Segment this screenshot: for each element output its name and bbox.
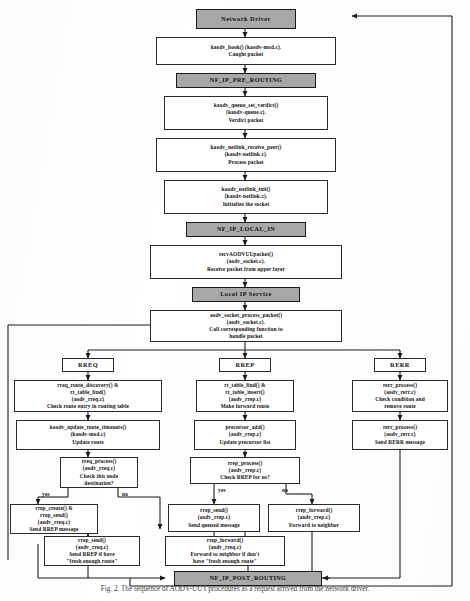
node-text: rrep_send() xyxy=(200,507,228,514)
node-kaodv-update-route-timeouts[interactable]: kaodv_update_route_timeouts() (kaodv-mod… xyxy=(16,420,160,450)
node-text: aodv_socket_process_packet() xyxy=(210,312,282,319)
node-text: handle packet xyxy=(229,333,263,340)
node-rrep-create-send[interactable]: rrep_create() & rrep_send() (aodv_rreq.c… xyxy=(10,504,98,534)
node-nf-ip-post-routing[interactable]: NF_IP_POST_ROUTING xyxy=(174,571,322,586)
node-rreq-process[interactable]: rreq_process() (aodv_rreq.c) Check this … xyxy=(60,457,138,488)
node-aodv-socket-process-packet[interactable]: aodv_socket_process_packet() (aodv_socke… xyxy=(150,310,342,342)
node-rrep-forward-fresh[interactable]: rrep_forward() (aodv_rreq.c) Forward to … xyxy=(165,536,285,566)
node-text: "fresh enough route" xyxy=(66,558,117,565)
node-text: (aodv_rrep.c) xyxy=(229,431,262,438)
node-text: rt_table_find() & xyxy=(224,382,265,389)
node-text: (aodv_rrep.c) xyxy=(229,396,262,403)
node-text: kaodv_queue_set_verdict() xyxy=(214,102,279,109)
node-text: Make forward route xyxy=(221,403,270,410)
node-text: remove route xyxy=(384,403,416,410)
node-precursor-add[interactable]: precursor_add() (aodv_rrep.c) Update pre… xyxy=(194,420,296,450)
node-text: recvAODVUUpacket() xyxy=(219,251,273,258)
node-text: Check RREP for us? xyxy=(220,474,269,481)
node-text: kaodv_hook() (kaodv-mod.c). xyxy=(211,44,282,51)
node-kaodv-queue-set-verdict[interactable]: kaodv_queue_set_verdict() (kaodv-queue.c… xyxy=(164,96,328,130)
node-text: NF_IP_LOCAL_IN xyxy=(217,225,275,233)
node-text: rrep_create() & xyxy=(35,505,73,512)
node-rrep-send-fresh[interactable]: rrep_send() (aodv_rreq.c) Send RREP if h… xyxy=(44,536,140,566)
node-text: Send RREP message xyxy=(29,526,78,533)
node-text: rrep_send() xyxy=(40,512,68,519)
node-nf-ip-local-in[interactable]: NF_IP_LOCAL_IN xyxy=(186,222,306,237)
node-text: rt_table_find() xyxy=(70,389,105,396)
node-text: (aodv_rrep.c) xyxy=(229,467,262,474)
node-text: RREQ xyxy=(78,361,98,369)
node-rt-table-find-insert[interactable]: rt_table_find() & rt_table_insert() (aod… xyxy=(196,380,294,412)
node-kaodv-netlink-receive-peer[interactable]: kaodv_netlink_receive_peer() (kaodv-netl… xyxy=(156,138,336,172)
edge-label-rreq-yes: yes xyxy=(42,491,50,497)
node-text: NF_IP_PRE_ROUTING xyxy=(210,76,282,84)
node-text: have "fresh enough route" xyxy=(193,558,257,565)
node-text: Verdict packet xyxy=(229,117,264,124)
node-text: destination? xyxy=(84,480,113,487)
node-text: (aodv_rreq.c) xyxy=(83,465,116,472)
node-local-ip-service[interactable]: Local IP Service xyxy=(192,287,300,302)
node-rerr-send-message[interactable]: rerr_process() (aodv_rerr.c) Send RERR m… xyxy=(352,420,448,450)
node-kaodv-hook[interactable]: kaodv_hook() (kaodv-mod.c). Caught packe… xyxy=(156,37,336,65)
node-text: (kaodv-mod.c) xyxy=(71,431,106,438)
node-text: precursor_add() xyxy=(225,424,264,431)
node-text: rt_table_insert() xyxy=(225,389,264,396)
node-text: Forward to neighbor if don't xyxy=(191,551,260,558)
node-text: (kaodv-netlink.c). xyxy=(225,151,268,158)
node-network-driver[interactable]: Network Driver xyxy=(196,9,296,29)
node-text: (aodv_rerr.c) xyxy=(384,431,415,438)
node-text: Update route xyxy=(72,439,104,446)
node-text: RREP xyxy=(235,361,254,369)
node-text: Send queued message xyxy=(188,522,240,529)
node-text: Process packet xyxy=(228,159,263,166)
node-text: (kaodv-queue.c). xyxy=(226,109,266,116)
node-text: Check condition and xyxy=(375,396,425,403)
node-rerr-process-check[interactable]: rerr_process() (aodv_rerr.c) Check condi… xyxy=(352,380,448,412)
node-text: Send RERR message xyxy=(375,439,425,446)
node-text: rerr_process() xyxy=(383,424,417,431)
node-text: RERR xyxy=(390,361,410,369)
node-recv-aodvuu-packet[interactable]: recvAODVUUpacket() (aodv_socket.c). Rece… xyxy=(150,245,342,279)
node-text: Call corresponding function to xyxy=(209,326,282,333)
node-text: (aodv_socket.c). xyxy=(227,258,265,265)
edge-label-rreq-no: no xyxy=(122,491,128,497)
node-text: rrep_forward() xyxy=(207,537,244,544)
node-text: (aodv_rerr.c) xyxy=(384,389,415,396)
node-text: Check route entry in routing table xyxy=(47,403,129,410)
node-tag-rerr[interactable]: RERR xyxy=(374,358,426,372)
node-text: Network Driver xyxy=(221,15,271,23)
node-text: rrep_forward() xyxy=(296,507,333,514)
node-text: rrep_process() xyxy=(228,460,263,467)
node-text: Update precursor list xyxy=(219,439,270,446)
node-text: Receive packet from upper layer xyxy=(207,266,285,273)
node-text: (aodv_rrep.c) xyxy=(198,514,231,521)
node-text: Check this node xyxy=(80,473,118,480)
node-kaodv-netlink-init[interactable]: kaodv_netlink_init() (kaodv-netlink.c). … xyxy=(164,180,328,214)
node-tag-rreq[interactable]: RREQ xyxy=(62,358,114,372)
figure-caption: Fig. 2. The sequence of AODV-UU's proced… xyxy=(0,585,470,593)
node-text: (aodv_rreq.c) xyxy=(72,396,105,403)
node-rreq-route-discovery[interactable]: rreq_route_discovery() & rt_table_find()… xyxy=(14,380,162,412)
node-tag-rrep[interactable]: RREP xyxy=(219,358,271,372)
node-rrep-process[interactable]: rrep_process() (aodv_rrep.c) Check RREP … xyxy=(190,457,300,484)
figure-canvas: Network Driver kaodv_hook() (kaodv-mod.c… xyxy=(0,0,470,601)
edge-label-rrep-no: no xyxy=(282,487,288,493)
node-nf-ip-pre-routing[interactable]: NF_IP_PRE_ROUTING xyxy=(176,73,316,88)
node-rrep-send-queued[interactable]: rrep_send() (aodv_rrep.c) Send queued me… xyxy=(168,504,260,532)
node-text: (aodv_rreq.c) xyxy=(76,544,109,551)
node-text: rreq_process() xyxy=(82,458,117,465)
node-text: (kaodv-netlink.c). xyxy=(225,193,268,200)
node-text: Send RREP if have xyxy=(69,551,115,558)
node-text: (aodv_rrep.c) xyxy=(298,514,331,521)
node-text: Initialize the socket xyxy=(223,201,270,208)
node-text: Forward to neighbor xyxy=(289,522,339,529)
node-text: Caught packet xyxy=(229,51,264,58)
node-text: kaodv_update_route_timeouts() xyxy=(50,424,126,431)
node-text: kaodv_netlink_init() xyxy=(221,186,270,193)
node-text: (aodv_rreq.c) xyxy=(38,519,71,526)
node-rrep-forward-neighbor[interactable]: rrep_forward() (aodv_rrep.c) Forward to … xyxy=(268,504,360,532)
node-text: rreq_route_discovery() & xyxy=(57,382,118,389)
node-text: (aodv_socket.c). xyxy=(227,319,265,326)
node-text: kaodv_netlink_receive_peer() xyxy=(211,144,282,151)
node-text: rrep_send() xyxy=(78,537,106,544)
